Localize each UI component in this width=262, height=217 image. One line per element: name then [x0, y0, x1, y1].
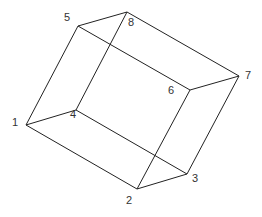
- vertex-label-7: 7: [245, 70, 251, 81]
- diagram-canvas: 12345678: [0, 0, 262, 217]
- vertex-label-6: 6: [168, 85, 174, 96]
- edge-1-4: [26, 110, 76, 125]
- edge-8-7: [127, 12, 239, 76]
- edge-6-5: [78, 26, 190, 90]
- edge-3-2: [137, 174, 187, 189]
- edge-2-1: [26, 125, 137, 189]
- edge-2-6: [137, 90, 190, 189]
- edges-layer: [0, 0, 262, 217]
- edge-4-3: [76, 110, 187, 174]
- vertex-label-2: 2: [126, 195, 132, 206]
- edge-5-8: [78, 12, 127, 26]
- vertex-label-5: 5: [64, 12, 70, 23]
- edge-3-7: [187, 76, 239, 174]
- edge-7-6: [190, 76, 239, 90]
- edge-4-8: [76, 12, 127, 110]
- vertex-label-3: 3: [192, 173, 198, 184]
- vertex-label-4: 4: [70, 109, 76, 120]
- vertex-label-1: 1: [12, 117, 18, 128]
- vertex-label-8: 8: [128, 17, 134, 28]
